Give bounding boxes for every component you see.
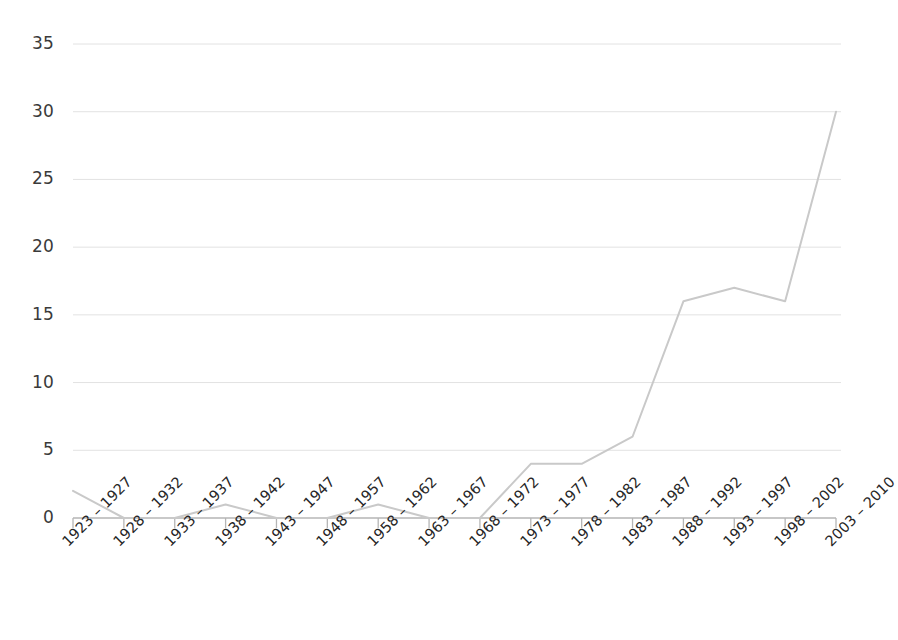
y-axis-tick-label: 15 — [14, 304, 54, 324]
y-axis-tick-label: 0 — [14, 507, 54, 527]
y-axis-tick-label: 35 — [14, 33, 54, 53]
y-axis-tick-label: 30 — [14, 101, 54, 121]
y-axis-tick-label: 20 — [14, 236, 54, 256]
y-axis-tick-label: 5 — [14, 439, 54, 459]
y-axis-tick-label: 10 — [14, 372, 54, 392]
y-axis-tick-label: 25 — [14, 168, 54, 188]
gridlines — [73, 44, 841, 450]
